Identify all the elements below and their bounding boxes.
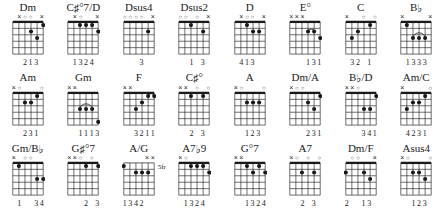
no-marker — [94, 154, 100, 161]
fingering-number: 2 — [355, 58, 361, 67]
fretboard — [122, 20, 156, 56]
finger-dot — [84, 107, 88, 111]
string-markers — [233, 84, 267, 91]
no-marker — [150, 84, 156, 91]
fingering-row: 3 — [119, 56, 159, 68]
chord-diagram[interactable]: Asus4123 — [389, 141, 444, 209]
chord-diagram[interactable]: A7♭91324 — [167, 141, 223, 209]
chord-diagram[interactable]: Gm1113 — [56, 71, 112, 139]
chord-diagram[interactable]: Gm/B♭134 — [0, 141, 56, 209]
fingering-row: 1324 — [230, 197, 270, 209]
chord-diagram[interactable]: B♭1333 — [389, 0, 444, 68]
fingering-row: 3211 — [119, 127, 159, 139]
chord-row: Am231Gm1113F3211C♯°23A123Dm/A231B♭/D341A… — [0, 71, 444, 142]
finger-dot — [96, 119, 100, 123]
fingering-number: 3 — [255, 129, 261, 138]
finger-dot — [350, 36, 354, 40]
chord-name: G°7 — [241, 141, 259, 154]
fingering-number: 3 — [139, 58, 145, 67]
finger-dot — [78, 107, 82, 111]
chord-name: D — [246, 0, 254, 13]
finger-dot — [423, 94, 427, 98]
finger-dot — [411, 100, 415, 104]
open-string-icon — [39, 84, 45, 91]
chord-name: C♯° — [186, 71, 203, 84]
open-string-icon — [261, 84, 267, 91]
chord-name-part: Asus4 — [402, 142, 430, 154]
fingering-row: 1324 — [63, 56, 103, 68]
fingering-row: 134 — [8, 197, 48, 209]
chord-diagram[interactable]: Dsus43 — [111, 0, 167, 68]
chord-diagram[interactable]: Dm213 — [0, 0, 56, 68]
finger-dot — [96, 164, 100, 168]
finger-dot — [417, 100, 421, 104]
no-marker — [316, 13, 322, 20]
chord-diagram[interactable]: A/G5fr1342 — [111, 141, 167, 209]
no-marker — [261, 154, 267, 161]
chord-grid — [399, 91, 433, 127]
fingering-row: 123 — [396, 197, 436, 209]
finger-dot — [96, 30, 100, 34]
chord-name-part: B — [410, 1, 417, 13]
chord-diagram[interactable]: Am231 — [0, 71, 56, 139]
chord-grid — [177, 161, 211, 197]
finger-dot — [356, 30, 360, 34]
open-string-icon — [372, 13, 378, 20]
chord-name: Dm — [20, 0, 37, 13]
fingering-number: 3 — [200, 129, 206, 138]
chord-diagram[interactable]: G°71324 — [222, 141, 278, 209]
fretboard — [399, 20, 433, 56]
chord-diagram[interactable]: F3211 — [111, 71, 167, 139]
finger-dot — [35, 94, 39, 98]
chord-diagram[interactable]: A723 — [278, 141, 334, 209]
chord-name: Am/C — [403, 71, 430, 84]
fingering-number: 3 — [422, 58, 428, 67]
chord-grid — [288, 20, 322, 56]
fingering-row: 13 — [174, 56, 214, 68]
accidental-glyph: ♭ — [356, 72, 361, 84]
chord-diagram[interactable]: E°131 — [278, 0, 334, 68]
chord-diagram[interactable]: G♯°723 — [56, 141, 112, 209]
finger-dot — [146, 171, 150, 175]
fingering-row: 213 — [8, 56, 48, 68]
chord-name-part: D — [246, 1, 254, 13]
fingering-number: 4 — [39, 199, 45, 208]
chord-diagram[interactable]: C321 — [333, 0, 389, 68]
string-markers — [11, 84, 45, 91]
chord-diagram[interactable]: Dm/A231 — [278, 71, 334, 139]
finger-dot — [35, 36, 39, 40]
chord-diagram[interactable]: B♭/D341 — [333, 71, 389, 139]
chord-diagram[interactable]: C♯°23 — [167, 71, 223, 139]
string-markers — [122, 13, 156, 20]
chord-diagram[interactable]: A123 — [222, 71, 278, 139]
finger-dot — [405, 107, 409, 111]
no-marker — [94, 84, 100, 91]
chord-diagram[interactable]: D413 — [222, 0, 278, 68]
string-markers — [399, 13, 433, 20]
no-marker — [316, 84, 322, 91]
fretboard — [11, 161, 45, 197]
fingering-number: 3 — [422, 199, 428, 208]
chord-name-part: Dsus2 — [180, 1, 208, 13]
chord-diagram[interactable]: Am/C4231 — [389, 71, 444, 139]
finger-dot — [17, 164, 21, 168]
chord-name: Gm/B♭ — [12, 141, 44, 154]
fingering-number: 1 — [316, 129, 322, 138]
finger-dot — [318, 94, 322, 98]
chord-name-part: E — [300, 1, 307, 13]
chord-diagram[interactable]: C♯°7/D1324 — [56, 0, 112, 68]
fretboard — [11, 91, 45, 127]
finger-dot — [84, 23, 88, 27]
chord-name: Dm/A — [292, 71, 320, 84]
chord-grid — [288, 91, 322, 127]
chord-grid — [344, 91, 378, 127]
chord-diagram[interactable]: Dm/F213 — [333, 141, 389, 209]
finger-dot — [146, 94, 150, 98]
chord-name: Gm — [75, 71, 92, 84]
fingering-number: 3 — [94, 129, 100, 138]
fingering-number: 1 — [33, 129, 39, 138]
chord-grid — [233, 161, 267, 197]
fingering-row: 131 — [285, 56, 325, 68]
chord-diagram[interactable]: Dsus213 — [167, 0, 223, 68]
finger-dot — [423, 177, 427, 181]
